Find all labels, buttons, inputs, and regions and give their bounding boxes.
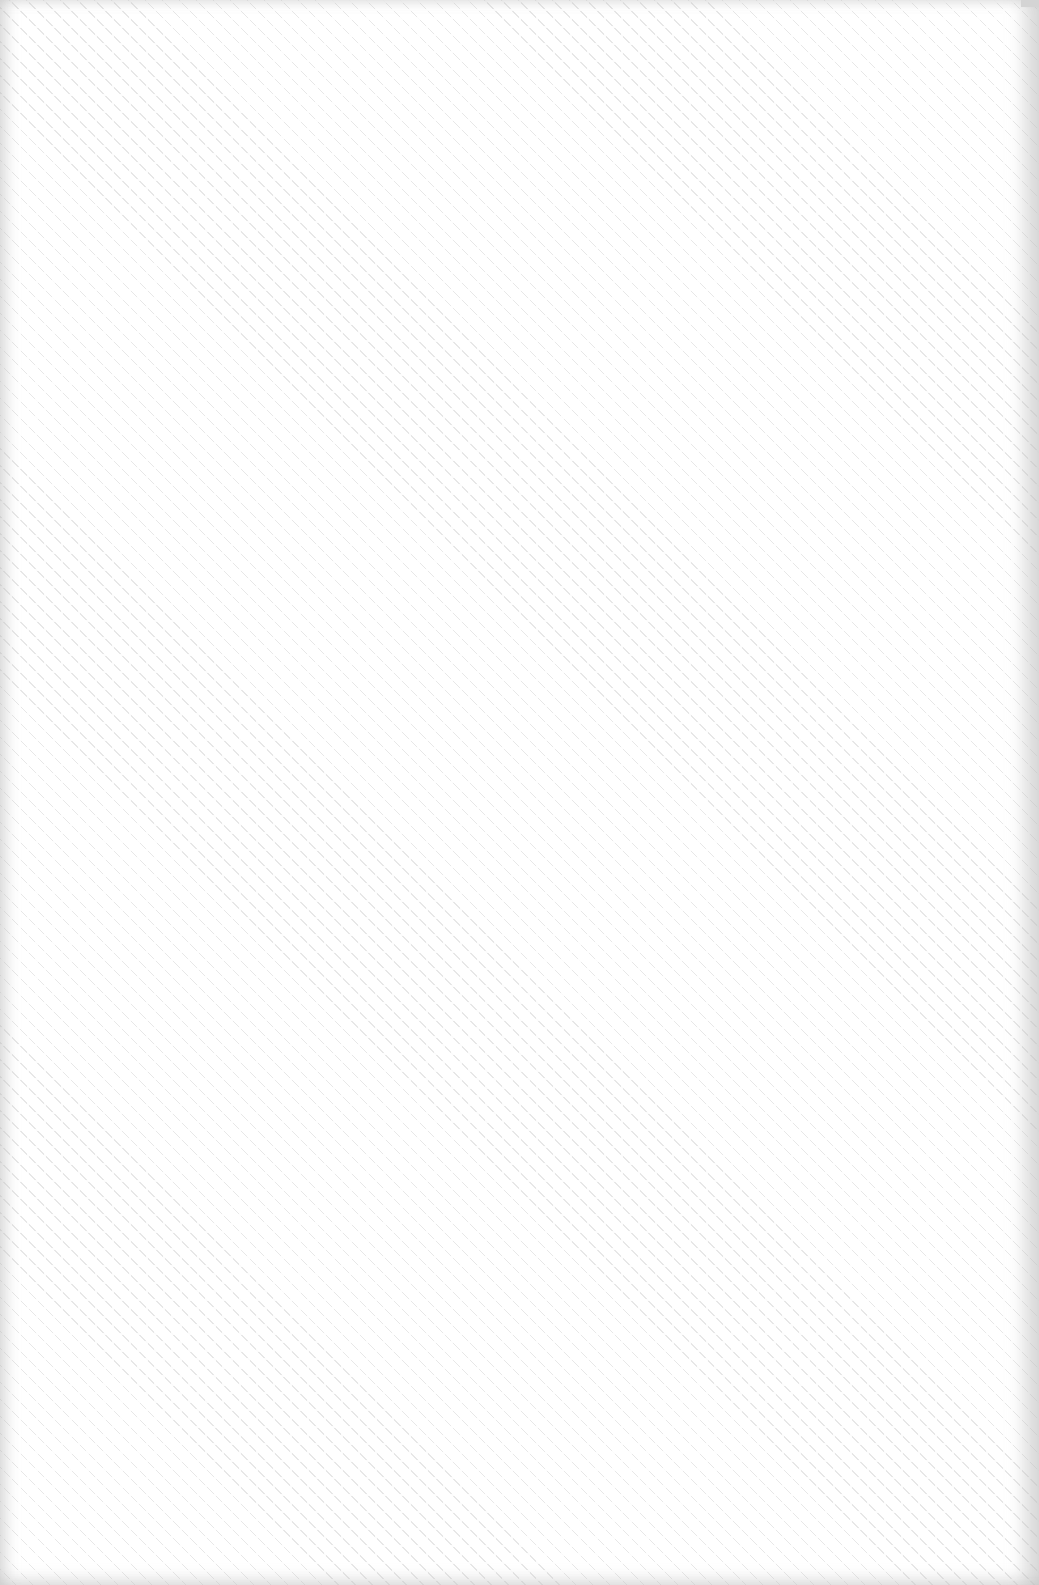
hatch-pattern-overlay	[0, 0, 1039, 1585]
corner-mark	[1021, 0, 1039, 7]
